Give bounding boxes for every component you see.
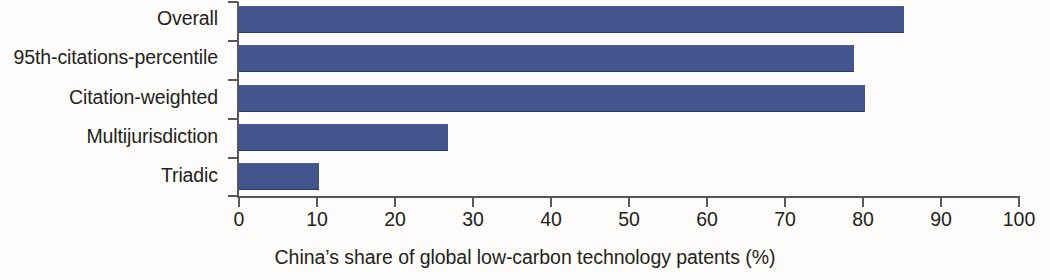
y-axis-tick-3 bbox=[228, 118, 238, 120]
x-axis-tick-label-30: 30 bbox=[462, 208, 484, 231]
y-axis-label-citation-weighted: Citation-weighted bbox=[0, 86, 218, 109]
bar-overall bbox=[238, 6, 904, 33]
y-axis-tick-0 bbox=[228, 1, 238, 3]
bar-multijurisdiction bbox=[238, 124, 448, 151]
x-axis-tick-10 bbox=[316, 198, 318, 207]
x-axis-tick-label-50: 50 bbox=[618, 208, 640, 231]
x-axis-title: China’s share of global low-carbon techn… bbox=[0, 246, 1050, 269]
x-axis-tick-label-100: 100 bbox=[1003, 208, 1036, 231]
y-axis-tick-1 bbox=[228, 40, 238, 42]
x-axis-tick-20 bbox=[394, 198, 396, 207]
x-axis-tick-label-0: 0 bbox=[234, 208, 245, 231]
x-axis-tick-label-90: 90 bbox=[930, 208, 952, 231]
x-axis-tick-label-20: 20 bbox=[384, 208, 406, 231]
x-axis-tick-60 bbox=[706, 198, 708, 207]
y-axis-tick-4 bbox=[228, 157, 238, 159]
y-axis-label-overall: Overall bbox=[0, 7, 218, 30]
x-axis-tick-0 bbox=[238, 198, 240, 207]
x-axis-tick-40 bbox=[550, 198, 552, 207]
x-axis-tick-label-80: 80 bbox=[852, 208, 874, 231]
x-axis-tick-30 bbox=[472, 198, 474, 207]
y-axis-category-labels: Overall 95th-citations-percentile Citati… bbox=[0, 0, 229, 196]
bar-chart: Overall 95th-citations-percentile Citati… bbox=[0, 0, 1050, 280]
x-axis-tick-70 bbox=[784, 198, 786, 207]
x-axis-tick-100 bbox=[1018, 198, 1020, 207]
x-axis-tick-label-60: 60 bbox=[696, 208, 718, 231]
x-axis-tick-label-40: 40 bbox=[540, 208, 562, 231]
y-axis-tick-2 bbox=[228, 79, 238, 81]
plot-area bbox=[238, 0, 1028, 196]
x-axis-tick-label-10: 10 bbox=[306, 208, 328, 231]
y-axis-label-triadic: Triadic bbox=[0, 164, 218, 187]
y-axis-tick-5 bbox=[228, 195, 238, 197]
bar-triadic bbox=[238, 163, 319, 190]
y-axis-label-multijurisdiction: Multijurisdiction bbox=[0, 125, 218, 148]
y-axis-label-95th-citations-percentile: 95th-citations-percentile bbox=[0, 46, 218, 69]
y-axis-line bbox=[237, 2, 239, 197]
x-axis-tick-90 bbox=[940, 198, 942, 207]
bar-citation-weighted bbox=[238, 85, 865, 112]
x-axis-tick-label-70: 70 bbox=[774, 208, 796, 231]
x-axis-tick-50 bbox=[628, 198, 630, 207]
x-axis-tick-80 bbox=[862, 198, 864, 207]
bar-95th-citations-percentile bbox=[238, 45, 854, 72]
